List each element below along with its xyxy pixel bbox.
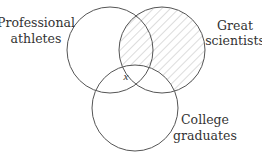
venn-diagram: Professional athletes Great scientists C… [0, 0, 262, 159]
graduates-label-line2: graduates [173, 128, 237, 143]
athletes-label-line1: Professional [0, 15, 75, 30]
point-x-label: x [123, 70, 129, 82]
graduates-label-line1: College [181, 112, 229, 127]
scientists-label-line1: Great [217, 18, 253, 33]
scientists-label-line2: scientists [205, 33, 262, 48]
athletes-label-line2: athletes [11, 31, 62, 46]
